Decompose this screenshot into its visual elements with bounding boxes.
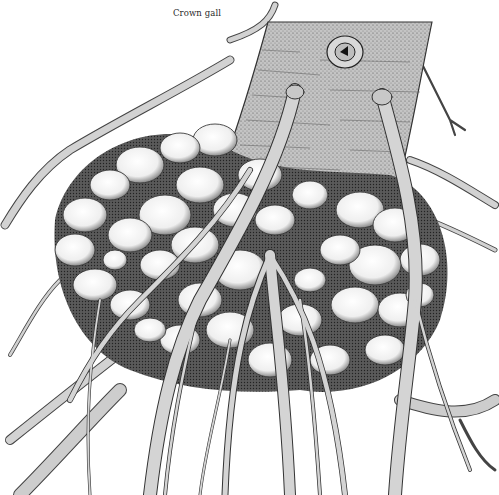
- bark-knot: [327, 36, 363, 68]
- crown-gall-label: Crown gall: [173, 8, 221, 18]
- illustration-artwork: [0, 0, 499, 495]
- crown-gall-illustration: Crown gall: [0, 0, 499, 495]
